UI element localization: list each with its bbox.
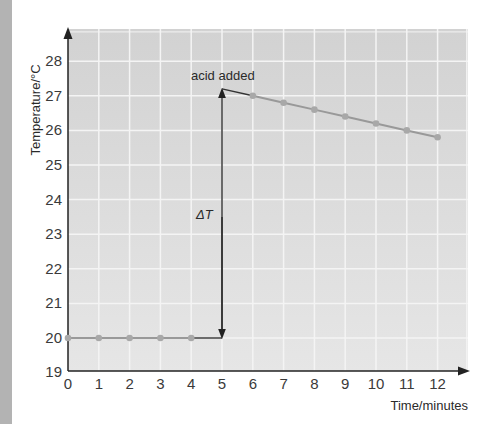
svg-text:8: 8 [310, 375, 318, 392]
svg-text:acid added: acid added [191, 68, 255, 83]
svg-text:2: 2 [125, 375, 133, 392]
svg-text:0: 0 [64, 375, 72, 392]
svg-text:23: 23 [45, 225, 62, 242]
svg-text:22: 22 [45, 260, 62, 277]
y-axis-label: Temperature/°C [28, 64, 43, 155]
svg-text:1: 1 [95, 375, 103, 392]
svg-text:11: 11 [399, 375, 415, 392]
svg-text:3: 3 [156, 375, 164, 392]
svg-text:27: 27 [45, 87, 62, 104]
svg-text:28: 28 [45, 52, 62, 69]
svg-text:24: 24 [45, 191, 62, 208]
x-axis-label: Time/minutes [390, 398, 468, 413]
svg-text:26: 26 [45, 121, 62, 138]
svg-text:25: 25 [45, 156, 62, 173]
svg-text:12: 12 [429, 375, 446, 392]
svg-text:10: 10 [368, 375, 385, 392]
svg-text:5: 5 [218, 375, 226, 392]
temperature-chart: 012345678910111219202122232425262728 aci… [0, 0, 489, 424]
svg-text:6: 6 [249, 375, 257, 392]
svg-text:7: 7 [279, 375, 287, 392]
svg-text:19: 19 [45, 363, 62, 380]
svg-text:ΔT: ΔT [195, 207, 214, 222]
svg-text:4: 4 [187, 375, 195, 392]
svg-text:20: 20 [45, 329, 62, 346]
svg-text:21: 21 [45, 294, 62, 311]
svg-text:9: 9 [341, 375, 349, 392]
